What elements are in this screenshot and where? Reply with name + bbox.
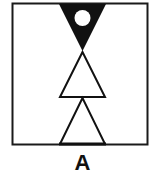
white-circle-icon bbox=[75, 10, 91, 26]
option-label: A bbox=[0, 150, 151, 176]
